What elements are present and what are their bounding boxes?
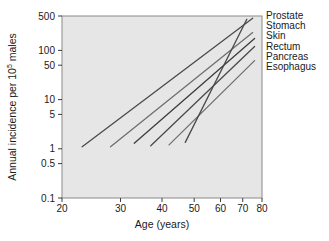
- y-tick-label-0.5: 0.5: [41, 158, 55, 169]
- y-axis-title-tail: males: [6, 33, 18, 64]
- x-tick-label-30: 30: [115, 203, 127, 214]
- y-axis-title: Annual incidence per 105 males: [6, 33, 18, 181]
- y-tick-label-10: 10: [44, 94, 56, 105]
- x-tick-label-50: 50: [189, 203, 201, 214]
- y-axis-title-base: Annual incidence per 10: [6, 68, 18, 181]
- y-tick-label-0.1: 0.1: [41, 193, 55, 204]
- x-tick-label-80: 80: [256, 203, 268, 214]
- y-tick-label-100: 100: [38, 45, 55, 56]
- y-tick-label-50: 50: [44, 60, 56, 71]
- x-axis-title: Age (years): [135, 218, 189, 230]
- x-tick-label-40: 40: [156, 203, 168, 214]
- cancer-incidence-log-log-chart: 0.10.5151050100500 20304050607080 Prosta…: [0, 0, 329, 241]
- figure-container: 0.10.5151050100500 20304050607080 Prosta…: [0, 0, 329, 241]
- x-tick-label-60: 60: [215, 203, 227, 214]
- y-axis-title-text: Annual incidence per 105 males: [6, 33, 18, 181]
- y-tick-label-1: 1: [49, 143, 55, 154]
- y-tick-label-500: 500: [38, 11, 55, 22]
- y-tick-label-5: 5: [49, 109, 55, 120]
- x-tick-label-70: 70: [237, 203, 249, 214]
- plot-area-background: [62, 16, 262, 198]
- legend-label-esophagus: Esophagus: [266, 61, 316, 72]
- x-tick-label-20: 20: [56, 203, 68, 214]
